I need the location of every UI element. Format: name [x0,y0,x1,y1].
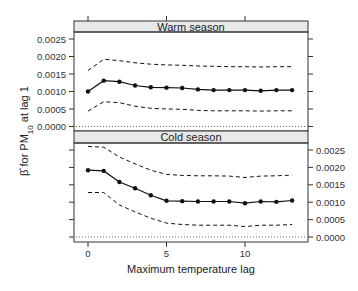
data-point [243,88,247,92]
ci-line [88,147,292,178]
data-point [259,199,263,203]
data-point [164,199,168,203]
data-point [196,87,200,91]
data-point [274,88,278,92]
data-point [243,201,247,205]
panel-frame [74,143,308,242]
ci-line [88,193,292,227]
ci-line [88,59,292,70]
data-point [211,88,215,92]
data-point [290,198,294,202]
data-point [86,168,90,172]
ci-line [88,102,292,111]
data-point [196,199,200,203]
cold-season-panel: Cold season0.00000.00050.00100.00150.002… [69,131,345,243]
x-tick-label: 10 [240,248,251,259]
data-point [227,199,231,203]
y-tick-label: 0.0025 [37,34,66,45]
warm-season-panel: Warm season0.00000.00050.00100.00150.002… [37,21,313,133]
y-axis-title-for-pm: for PM [18,134,30,169]
data-point [133,83,137,87]
y-tick-label: 0.0020 [37,51,66,62]
x-tick-label: 5 [164,248,169,259]
chart: Warm season0.00000.00050.00100.00150.002… [0,0,358,291]
y-axis-title-rest: at lag 1 [18,86,30,125]
data-point [180,86,184,90]
data-point [117,80,121,84]
data-point [117,180,121,184]
panel-title: Cold season [160,131,221,143]
y-tick-label: 0.0015 [316,179,345,190]
data-point [274,200,278,204]
y-tick-label: 0.0015 [37,69,66,80]
data-point [133,186,137,190]
data-point [211,199,215,203]
y-tick-label: 0.0010 [37,86,66,97]
y-tick-label: 0.0000 [37,121,66,132]
x-axis-title: Maximum temperature lag [127,263,255,275]
data-point [227,88,231,92]
y-tick-label: 0.0005 [316,214,345,225]
y-tick-label: 0.0025 [316,145,345,156]
x-tick-label: 0 [85,248,90,259]
data-point [102,169,106,173]
data-point [180,199,184,203]
panel-title: Warm season [157,21,224,33]
y-tick-label: 0.0005 [37,104,66,115]
y-tick-label: 0.0010 [316,197,345,208]
y-axis-title: β̂ for PM10 at lag 1 [18,86,35,176]
data-point [149,193,153,197]
data-point [290,88,294,92]
data-point [259,89,263,93]
data-point [149,85,153,89]
data-point [86,89,90,93]
y-tick-label: 0.0000 [316,232,345,243]
y-tick-label: 0.0020 [316,162,345,173]
svg-text:β̂ for PM10 at lag 1: β̂ for PM10 at lag 1 [18,86,35,176]
data-point [164,85,168,89]
data-point [102,78,106,82]
